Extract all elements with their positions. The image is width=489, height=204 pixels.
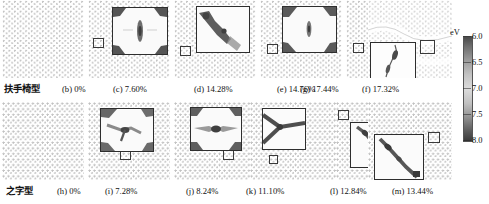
colorbar-notch — [463, 114, 471, 115]
honeycomb-lattice — [2, 0, 84, 78]
zoom-inset-i — [100, 108, 154, 152]
caption-b: (b) 0% — [62, 78, 86, 100]
defect-render-c — [113, 8, 167, 54]
zoom-region-marker — [338, 110, 349, 120]
zoom-region-marker — [353, 43, 364, 53]
caption-i: (i) 7.28% — [105, 180, 137, 202]
caption-d: (d) 14.28% — [194, 78, 233, 100]
colorbar-unit-label: eV — [450, 28, 460, 37]
caption-g: (g) 17.44% — [300, 78, 339, 100]
zoom-inset-c — [112, 7, 168, 55]
honeycomb-lattice — [2, 102, 84, 180]
zoom-region-marker — [267, 44, 278, 54]
row-label-armchair: 扶手椅型 — [4, 78, 40, 100]
figure-panel-grid: 扶手椅型 (b) 0% (c) 7.60% (d) 14.28% (e) 14.… — [0, 0, 489, 204]
defect-render-m — [375, 135, 423, 179]
colorbar-notch — [463, 62, 471, 63]
colorbar: eV 6.0 6.5 7.0 7.5 8.0 — [452, 24, 489, 146]
zoom-region-marker — [420, 40, 435, 54]
zoom-inset-j — [190, 107, 242, 151]
panel-j — [174, 102, 256, 180]
caption-m: (m) 13.44% — [392, 180, 433, 202]
colorbar-notch — [463, 88, 471, 89]
caption-k: (k) 11.10% — [246, 180, 284, 202]
panel-b — [2, 0, 84, 78]
colorbar-notch — [463, 36, 471, 37]
defect-render-i — [101, 109, 153, 151]
colorbar-tick-2: 7.0 — [472, 84, 482, 93]
zoom-region-marker — [223, 150, 234, 160]
defect-render-g — [371, 43, 415, 78]
caption-j: (j) 8.24% — [186, 180, 218, 202]
panel-h — [2, 102, 84, 180]
defect-render-k — [263, 109, 305, 149]
zoom-inset-e — [282, 6, 337, 53]
zoom-region-marker — [93, 38, 104, 48]
zoom-inset-m — [374, 134, 424, 180]
caption-l: (l) 12.84% — [330, 180, 367, 202]
colorbar-tick-3: 7.5 — [472, 110, 482, 119]
panel-d — [174, 0, 256, 78]
panel-g-fracture — [368, 0, 452, 78]
zoom-region-marker — [180, 46, 191, 56]
panel-c — [88, 0, 170, 78]
panel-m — [368, 102, 452, 180]
caption-row-armchair: 扶手椅型 (b) 0% (c) 7.60% (d) 14.28% (e) 14.… — [0, 78, 440, 100]
zoom-inset-d — [196, 6, 250, 53]
panel-i — [88, 102, 170, 180]
colorbar-notch — [463, 140, 471, 141]
defect-render-e — [283, 7, 336, 52]
caption-c: (c) 7.60% — [113, 78, 147, 100]
zoom-region-marker — [428, 132, 440, 143]
panel-k — [250, 102, 336, 180]
caption-row-zigzag: 之字型 (h) 0% (i) 7.28% (j) 8.24% (k) 11.10… — [0, 180, 440, 202]
colorbar-tick-1: 6.5 — [472, 58, 482, 67]
row-label-zigzag: 之字型 — [6, 180, 33, 202]
defect-render-j — [191, 108, 241, 150]
caption-h: (h) 0% — [57, 180, 81, 202]
zoom-inset-g — [370, 42, 416, 78]
zoom-inset-k — [262, 108, 306, 150]
zoom-region-marker — [269, 155, 278, 164]
panel-e — [260, 0, 342, 78]
colorbar-tick-4: 8.0 — [472, 136, 482, 145]
caption-f: (f) 17.32% — [362, 78, 399, 100]
defect-render-d — [197, 7, 249, 52]
colorbar-tick-0: 6.0 — [472, 32, 482, 41]
